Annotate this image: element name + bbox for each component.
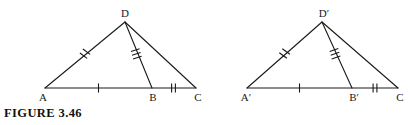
right-tick-group-cevian-db <box>330 48 341 59</box>
left-tick-group-side-ad <box>80 49 90 58</box>
figure-container: D A B C <box>0 0 410 125</box>
right-triangle-cevian-db <box>322 22 352 88</box>
figure-caption: FIGURE 3.46 <box>4 106 82 121</box>
right-triangle-label-base-right: C <box>396 91 403 103</box>
left-triangle-cevian-db <box>125 22 152 88</box>
right-triangle-label-base-left: A′ <box>241 91 251 103</box>
right-triangle: D′ A′ B′ C <box>241 7 404 103</box>
right-triangle-side-dc <box>322 22 398 88</box>
left-triangle-side-dc <box>125 22 196 88</box>
right-tick-group-side-ad <box>279 49 290 59</box>
left-triangle-side-ad <box>45 22 125 88</box>
left-triangle: D A B C <box>39 7 202 103</box>
left-triangle-label-base-left: A <box>39 91 47 103</box>
left-triangle-label-base-right: C <box>194 91 201 103</box>
right-triangle-side-ad <box>247 22 322 88</box>
right-triangle-label-apex: D′ <box>319 7 329 19</box>
right-triangle-label-base-mid: B′ <box>349 91 359 103</box>
left-triangle-label-base-mid: B <box>149 91 156 103</box>
left-triangle-label-apex: D <box>121 7 129 19</box>
